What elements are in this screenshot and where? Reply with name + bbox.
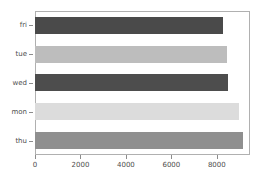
y-tick-mark [29, 112, 33, 113]
y-tick-mark [29, 54, 33, 55]
bar-wed [35, 74, 228, 91]
bar-row [35, 40, 227, 69]
x-axis: 02000400060008000 [35, 155, 250, 179]
bar-thu [35, 132, 243, 149]
x-tick-mark [126, 155, 127, 159]
x-tick-label-2000: 2000 [72, 161, 90, 169]
y-tick-label-thu: thu [15, 126, 27, 155]
bar-chart: frituewedmonthu 02000400060008000 [0, 0, 268, 182]
x-tick-mark [35, 155, 36, 159]
y-tick-mark [29, 25, 33, 26]
y-tick-label-tue: tue [16, 40, 28, 69]
bar-row [35, 97, 239, 126]
x-tick-label-4000: 4000 [117, 161, 135, 169]
y-tick-label-fri: fri [20, 11, 27, 40]
y-tick-label-wed: wed [13, 69, 27, 98]
x-tick-mark [217, 155, 218, 159]
bar-fri [35, 17, 223, 34]
x-tick-mark [171, 155, 172, 159]
bar-mon [35, 103, 239, 120]
x-tick-label-8000: 8000 [208, 161, 226, 169]
bars-layer [35, 11, 250, 155]
x-tick-label-0: 0 [33, 161, 37, 169]
bar-row [35, 126, 243, 155]
bar-row [35, 69, 228, 98]
bar-row [35, 11, 223, 40]
y-axis: frituewedmonthu [0, 11, 33, 155]
y-tick-mark [29, 141, 33, 142]
y-tick-mark [29, 83, 33, 84]
y-tick-label-mon: mon [11, 97, 27, 126]
x-tick-label-6000: 6000 [162, 161, 180, 169]
x-tick-mark [80, 155, 81, 159]
bar-tue [35, 46, 227, 63]
